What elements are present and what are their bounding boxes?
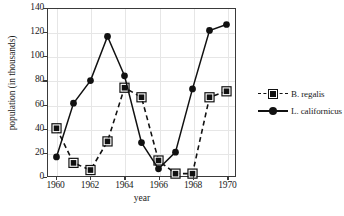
data-point-marker (87, 77, 94, 84)
legend-item-b-regalis: B. regalis (258, 86, 344, 101)
legend-label-l-californicus: L. californicus (291, 106, 342, 116)
data-point-marker (70, 100, 77, 107)
data-point-marker (70, 160, 77, 167)
data-point-marker (206, 27, 213, 34)
data-point-marker (155, 157, 162, 164)
chart-figure: 020406080100120140 196019621964196619681… (0, 0, 344, 216)
data-point-marker (138, 94, 145, 101)
legend-label-b-regalis: B. regalis (291, 89, 325, 99)
x-tick-mark (227, 176, 228, 180)
x-tick-mark (193, 176, 194, 180)
y-tick-mark (43, 129, 47, 130)
data-point-marker (104, 138, 111, 145)
data-point-marker (223, 88, 230, 95)
series-layer (48, 9, 235, 176)
y-tick-mark (43, 177, 47, 178)
data-point-marker (53, 125, 60, 132)
data-point-marker (172, 149, 179, 156)
data-point-marker (87, 167, 94, 174)
x-tick-mark (159, 176, 160, 180)
y-tick-mark (43, 8, 47, 9)
data-point-marker (155, 165, 162, 172)
data-point-marker (121, 72, 128, 79)
data-point-marker (206, 94, 213, 101)
data-point-marker (223, 21, 230, 28)
y-tick-label: 20 (0, 148, 44, 158)
y-tick-mark (43, 80, 47, 81)
data-point-marker (172, 170, 179, 177)
data-point-marker (53, 154, 60, 161)
legend-swatch-dashed-square (258, 88, 288, 100)
plot-area (47, 8, 236, 177)
x-axis-label: year (97, 193, 187, 203)
y-axis-label: population (in thousands) (7, 23, 17, 143)
legend-item-l-californicus: L. californicus (258, 103, 344, 118)
legend-swatch-solid-circle (258, 105, 288, 117)
data-point-marker (138, 139, 145, 146)
y-tick-label: 140 (0, 3, 44, 13)
x-tick-label: 1970 (207, 180, 247, 190)
data-point-marker (104, 33, 111, 40)
legend: B. regalis L. californicus (258, 86, 344, 120)
data-point-marker (189, 86, 196, 93)
y-tick-mark (43, 105, 47, 106)
x-tick-mark (124, 176, 125, 180)
x-tick-mark (56, 176, 57, 180)
y-tick-mark (43, 153, 47, 154)
y-tick-mark (43, 32, 47, 33)
x-tick-mark (90, 176, 91, 180)
y-tick-mark (43, 56, 47, 57)
